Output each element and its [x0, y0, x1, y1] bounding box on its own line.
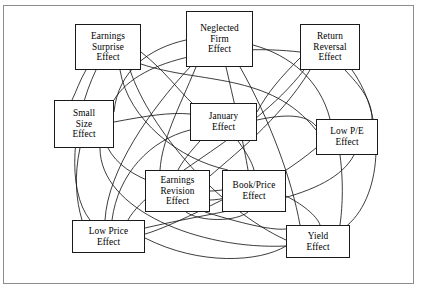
node-label-line: Book/Price — [233, 180, 276, 191]
node-low-pe-effect[interactable]: Low P/EEffect — [316, 119, 378, 155]
node-label-line: January — [209, 111, 239, 122]
node-neglected-firm-effect[interactable]: NeglectedFirmEffect — [186, 11, 253, 67]
node-label-line: Earnings — [91, 31, 125, 42]
node-label-line: Effect — [318, 52, 341, 63]
node-label-line: Effect — [72, 129, 95, 140]
effect-nodes-layer: EarningsSurpriseEffectNeglectedFirmEffec… — [0, 0, 423, 296]
node-yield-effect[interactable]: YieldEffect — [286, 225, 350, 258]
node-label-line: Size — [76, 119, 92, 130]
node-label-line: Effect — [306, 242, 329, 253]
node-label-line: Return — [317, 31, 343, 42]
node-label-line: Low Price — [89, 226, 128, 237]
node-book-price-effect[interactable]: Book/PriceEffect — [222, 170, 286, 212]
node-label-line: Effect — [212, 122, 235, 133]
node-label-line: Effect — [208, 44, 231, 55]
node-return-reversal-effect[interactable]: ReturnReversalEffect — [300, 24, 360, 70]
node-label-line: Yield — [308, 231, 329, 242]
node-label-line: Effect — [166, 196, 189, 207]
node-label-line: Earnings — [161, 175, 195, 186]
node-label-line: Surprise — [92, 42, 124, 53]
node-low-price-effect[interactable]: Low PriceEffect — [72, 220, 145, 253]
node-label-line: Revision — [161, 186, 195, 197]
node-label-line: Small — [73, 108, 95, 119]
node-small-size-effect[interactable]: SmallSizeEffect — [54, 100, 114, 148]
node-label-line: Low P/E — [330, 126, 364, 137]
node-label-line: Firm — [210, 34, 228, 45]
node-earnings-surprise-effect[interactable]: EarningsSurpriseEffect — [75, 24, 141, 70]
diagram-root: EarningsSurpriseEffectNeglectedFirmEffec… — [0, 0, 423, 296]
node-label-line: Effect — [96, 52, 119, 63]
node-january-effect[interactable]: JanuaryEffect — [190, 103, 257, 141]
node-earnings-revision-effect[interactable]: EarningsRevisionEffect — [145, 170, 210, 212]
node-label-line: Reversal — [313, 42, 346, 53]
node-label-line: Effect — [242, 191, 265, 202]
node-label-line: Effect — [97, 237, 120, 248]
node-label-line: Neglected — [200, 23, 239, 34]
node-label-line: Effect — [335, 137, 358, 148]
